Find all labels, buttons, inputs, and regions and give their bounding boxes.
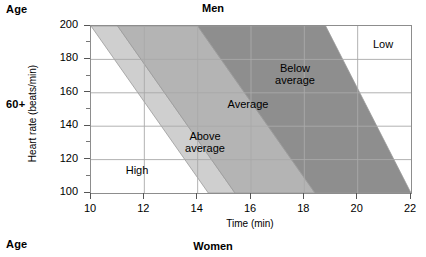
y-tick-mark bbox=[84, 91, 90, 92]
x-tick-label: 20 bbox=[342, 203, 372, 214]
band-label-below-average: Below average bbox=[255, 62, 335, 86]
x-tick-mark bbox=[90, 193, 91, 199]
y-tick-minor bbox=[86, 75, 90, 76]
x-tick-label: 12 bbox=[128, 203, 158, 214]
x-tick-mark bbox=[196, 193, 197, 199]
x-tick-mark bbox=[250, 193, 251, 199]
chart-title-women: Women bbox=[0, 240, 426, 252]
y-tick-minor bbox=[86, 41, 90, 42]
band-label-average: Average bbox=[208, 98, 288, 110]
y-axis-label: Heart rate (beats/min) bbox=[27, 54, 38, 174]
x-tick-mark bbox=[303, 193, 304, 199]
x-tick-label: 14 bbox=[182, 203, 212, 214]
chart-page: Age 60+ Age Men Women Heart rate (beats/… bbox=[0, 0, 426, 257]
y-tick-minor bbox=[86, 141, 90, 142]
x-tick-label: 10 bbox=[75, 203, 105, 214]
y-tick-label: 100 bbox=[44, 186, 78, 197]
y-tick-label: 140 bbox=[44, 119, 78, 130]
x-tick-label: 16 bbox=[235, 203, 265, 214]
y-tick-mark bbox=[84, 25, 90, 26]
y-tick-label: 180 bbox=[44, 52, 78, 63]
y-tick-label: 160 bbox=[44, 86, 78, 97]
y-tick-mark bbox=[84, 125, 90, 126]
age-value-60plus: 60+ bbox=[6, 98, 25, 110]
x-axis-label: Time (min) bbox=[90, 218, 410, 229]
y-tick-mark bbox=[84, 58, 90, 59]
band-label-above-average: Above average bbox=[165, 130, 245, 154]
x-tick-label: 22 bbox=[395, 203, 425, 214]
y-tick-mark bbox=[84, 158, 90, 159]
band-label-high: High bbox=[97, 164, 177, 176]
band-label-low: Low bbox=[343, 38, 423, 50]
y-tick-label: 200 bbox=[44, 19, 78, 30]
y-tick-label: 120 bbox=[44, 153, 78, 164]
x-tick-mark bbox=[143, 193, 144, 199]
x-tick-mark bbox=[356, 193, 357, 199]
y-tick-minor bbox=[86, 108, 90, 109]
chart-title-men: Men bbox=[0, 2, 426, 14]
x-tick-mark bbox=[410, 193, 411, 199]
y-tick-minor bbox=[86, 175, 90, 176]
x-tick-label: 18 bbox=[288, 203, 318, 214]
